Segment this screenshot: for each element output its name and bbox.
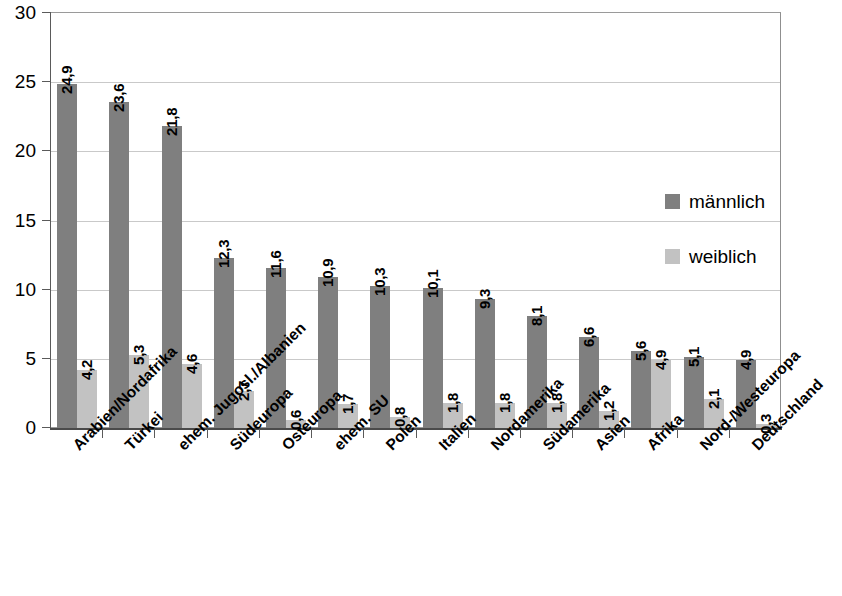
y-axis-tick-label: 10 — [0, 280, 36, 299]
bar-value-label: 21,8 — [164, 108, 179, 136]
legend-swatch-weiblich — [665, 249, 680, 264]
bar-value-label: 24,9 — [59, 65, 74, 93]
bar-maennlich — [423, 288, 443, 428]
y-axis-tick — [42, 150, 51, 151]
y-axis-tick — [42, 289, 51, 290]
bar-group — [312, 13, 364, 428]
bar-value-label: 10,1 — [425, 270, 440, 298]
y-axis-tick — [42, 12, 51, 13]
bar-value-label: 8,1 — [529, 306, 544, 326]
y-axis-tick-label: 0 — [0, 418, 36, 437]
bar-value-label: 9,3 — [477, 289, 492, 309]
bar-value-label: 5,1 — [686, 347, 701, 367]
legend-swatch-maennlich — [665, 194, 680, 209]
bar-maennlich — [631, 351, 651, 428]
bar-maennlich — [684, 357, 704, 428]
y-axis-tick-label: 30 — [0, 3, 36, 22]
legend-item-maennlich: männlich — [665, 192, 765, 211]
bar-group — [521, 13, 573, 428]
bar-maennlich — [57, 84, 77, 428]
bar-value-label: 4,9 — [653, 350, 668, 370]
y-axis-tick — [42, 358, 51, 359]
y-axis-tick-label: 15 — [0, 211, 36, 230]
bar-value-label: 10,9 — [320, 259, 335, 287]
bar-value-label: 4,2 — [79, 360, 94, 380]
bar-group — [573, 13, 625, 428]
bar-chart: 051015202530 24,94,223,65,321,84,612,32,… — [0, 0, 842, 596]
bar-value-label: 12,3 — [216, 239, 231, 267]
bar-value-label: 4,9 — [738, 350, 753, 370]
bar-value-label: 1,8 — [445, 393, 460, 413]
legend-label-maennlich: männlich — [689, 192, 765, 211]
y-axis-tick — [42, 81, 51, 82]
bar-group — [469, 13, 521, 428]
legend-label-weiblich: weiblich — [689, 247, 757, 266]
y-axis-tick-label: 20 — [0, 141, 36, 160]
bar-value-label: 10,3 — [372, 267, 387, 295]
bar-value-label: 1,8 — [497, 393, 512, 413]
y-axis-tick-label: 25 — [0, 72, 36, 91]
bar-maennlich — [162, 126, 182, 428]
y-axis-tick — [42, 220, 51, 221]
bar-value-label: 4,6 — [184, 354, 199, 374]
bar-value-label: 2,1 — [706, 389, 721, 409]
bar-group — [417, 13, 469, 428]
legend-item-weiblich: weiblich — [665, 247, 757, 266]
bar-value-label: 6,6 — [581, 326, 596, 346]
bar-maennlich — [109, 102, 129, 428]
bar-group — [364, 13, 416, 428]
bar-value-label: 11,6 — [268, 250, 283, 278]
y-axis-tick-label: 5 — [0, 349, 36, 368]
bar-value-label: 23,6 — [111, 83, 126, 111]
bar-maennlich — [475, 299, 495, 428]
bar-value-label: 5,3 — [131, 344, 146, 364]
bar-value-label: 5,6 — [633, 340, 648, 360]
